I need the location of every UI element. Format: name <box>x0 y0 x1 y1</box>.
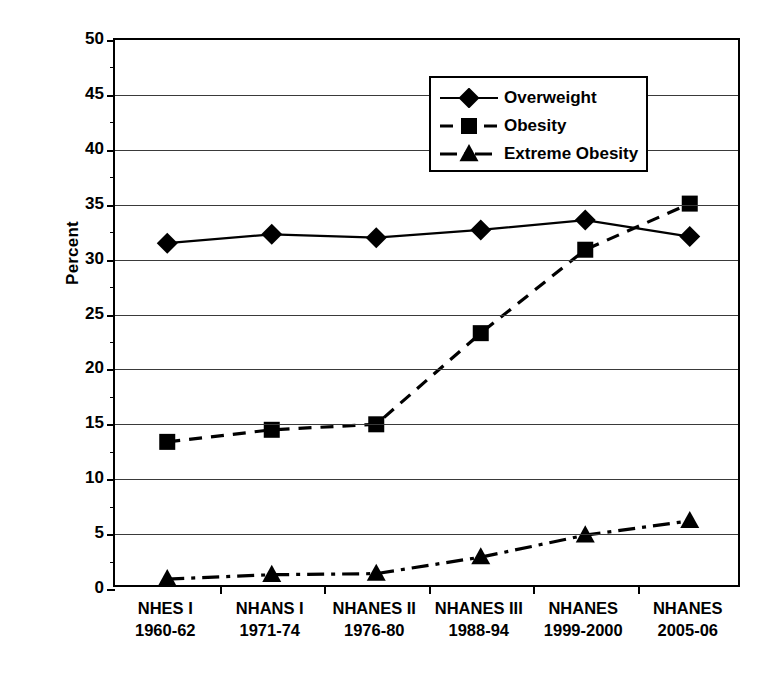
legend-item: Obesity <box>431 112 646 140</box>
x-category-label: NHANES III1988-94 <box>427 598 532 658</box>
gridline <box>115 534 738 535</box>
y-tick-mark <box>107 205 115 207</box>
square-legend-icon <box>438 116 500 136</box>
y-tick-label: 0 <box>58 579 104 596</box>
legend-label: Obesity <box>500 116 566 136</box>
legend-label: Extreme Obesity <box>500 144 638 164</box>
x-category-label: NHANES II1976-80 <box>322 598 427 658</box>
y-tick-mark <box>107 589 115 591</box>
series-line <box>167 204 690 442</box>
y-axis-tick-labels: 05101520253035404550 <box>52 0 104 676</box>
x-category-years: 1988-94 <box>427 620 532 642</box>
y-tick-mark <box>107 369 115 371</box>
y-minor-tick-mark <box>110 232 115 233</box>
x-category-name: NHANES III <box>427 598 532 620</box>
x-category-name: NHES I <box>113 598 218 620</box>
x-category-label: NHANES1999-2000 <box>531 598 636 658</box>
x-category-name: NHANES <box>636 598 741 620</box>
x-category-name: NHANES <box>531 598 636 620</box>
x-tick-mark <box>429 585 431 594</box>
y-tick-label: 30 <box>58 249 104 266</box>
legend-item: Extreme Obesity <box>431 140 646 168</box>
diamond-marker <box>366 227 387 248</box>
y-minor-tick-mark <box>110 342 115 343</box>
gridline <box>115 260 738 261</box>
triangle-marker <box>680 511 699 528</box>
gridline <box>115 424 738 425</box>
x-category-years: 1971-74 <box>218 620 323 642</box>
x-category-years: 1976-80 <box>322 620 427 642</box>
gridline <box>115 369 738 370</box>
x-category-label: NHANS I1971-74 <box>218 598 323 658</box>
x-tick-mark <box>533 585 535 594</box>
diamond-marker <box>575 210 596 231</box>
series-line <box>167 521 690 579</box>
square-marker <box>461 118 477 134</box>
gridline <box>115 315 738 316</box>
diamond-marker <box>459 88 480 108</box>
y-tick-label: 10 <box>58 469 104 486</box>
y-tick-label: 35 <box>58 194 104 211</box>
y-tick-mark <box>107 260 115 262</box>
y-minor-tick-mark <box>110 562 115 563</box>
y-minor-tick-mark <box>110 287 115 288</box>
x-tick-mark <box>638 585 640 594</box>
x-category-name: NHANES II <box>322 598 427 620</box>
square-marker <box>577 242 593 258</box>
x-tick-mark <box>324 585 326 594</box>
x-category-name: NHANS I <box>218 598 323 620</box>
x-category-years: 1960-62 <box>113 620 218 642</box>
x-axis-tick-labels: NHES I1960-62NHANS I1971-74NHANES II1976… <box>113 598 740 658</box>
diamond-legend-icon <box>438 88 500 108</box>
diamond-marker <box>679 226 700 247</box>
y-minor-tick-mark <box>110 397 115 398</box>
gridline <box>115 479 738 480</box>
y-tick-label: 25 <box>58 304 104 321</box>
x-category-label: NHANES2005-06 <box>636 598 741 658</box>
y-minor-tick-mark <box>110 177 115 178</box>
y-tick-label: 5 <box>58 524 104 541</box>
y-tick-mark <box>107 424 115 426</box>
y-tick-mark <box>107 95 115 97</box>
y-minor-tick-mark <box>110 452 115 453</box>
legend-item: Overweight <box>431 84 646 112</box>
y-tick-mark <box>107 40 115 42</box>
x-category-years: 1999-2000 <box>531 620 636 642</box>
gridline <box>115 205 738 206</box>
diamond-marker <box>261 224 282 245</box>
diamond-marker <box>157 233 178 254</box>
y-tick-label: 50 <box>58 30 104 47</box>
y-minor-tick-mark <box>110 122 115 123</box>
y-tick-mark <box>107 150 115 152</box>
y-tick-mark <box>107 315 115 317</box>
diamond-marker <box>470 219 491 240</box>
series-overweight <box>157 210 701 254</box>
y-tick-label: 40 <box>58 139 104 156</box>
chart-legend: OverweightObesityExtreme Obesity <box>429 76 648 172</box>
x-category-label: NHES I1960-62 <box>113 598 218 658</box>
y-tick-label: 45 <box>58 84 104 101</box>
x-category-years: 2005-06 <box>636 620 741 642</box>
y-minor-tick-mark <box>110 67 115 68</box>
y-tick-mark <box>107 534 115 536</box>
chart-container: Percent 05101520253035404550 NHES I1960-… <box>0 0 776 676</box>
legend-label: Overweight <box>500 88 597 108</box>
y-tick-mark <box>107 479 115 481</box>
y-tick-label: 20 <box>58 359 104 376</box>
triangle-legend-icon <box>438 144 500 164</box>
square-marker <box>159 434 175 450</box>
square-marker <box>473 325 489 341</box>
x-tick-mark <box>220 585 222 594</box>
square-marker <box>682 196 698 212</box>
y-tick-label: 15 <box>58 414 104 431</box>
series-extreme-obesity <box>158 511 700 586</box>
y-minor-tick-mark <box>110 507 115 508</box>
